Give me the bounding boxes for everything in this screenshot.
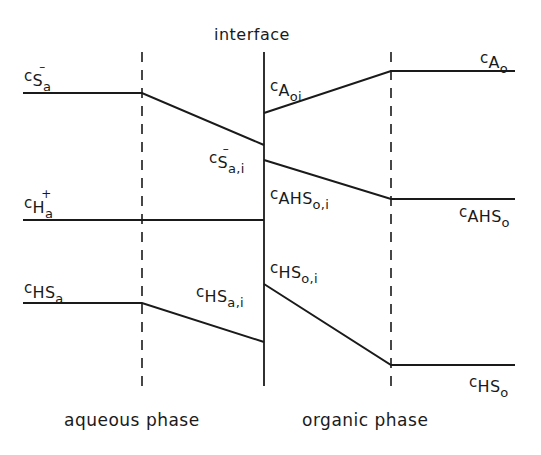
label-c-aoi: cAoi — [270, 78, 302, 94]
label-c-hsa: cHSa — [24, 280, 64, 296]
label-c-ao: cAo — [480, 50, 508, 66]
profile-c-sa — [23, 93, 264, 145]
label-c-hsa-i: cHSa,i — [196, 284, 244, 300]
aqueous-phase-caption: aqueous phase — [64, 410, 200, 430]
label-c-ha: cHa+ — [24, 195, 52, 211]
interface-title: interface — [214, 25, 290, 44]
label-c-sa: cSa– — [24, 68, 46, 84]
organic-phase-caption: organic phase — [302, 410, 428, 430]
label-c-ahso: cAHSo — [459, 204, 510, 220]
concentration-profile-diagram — [0, 0, 541, 455]
profile-c-hso — [264, 284, 515, 365]
label-c-sa-i: cSa,i– — [209, 150, 243, 166]
label-c-hso: cHSo — [469, 374, 509, 390]
label-c-ahso-i: cAHSo,i — [270, 186, 329, 202]
label-c-hso-i: cHSo,i — [270, 260, 318, 276]
